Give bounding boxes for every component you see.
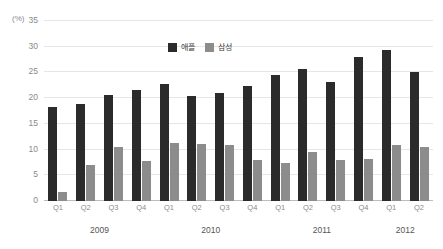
bar-apple[interactable] xyxy=(410,72,419,201)
x-axis-tick-label: Q1 xyxy=(266,203,294,212)
bar-samsung[interactable] xyxy=(308,152,317,201)
legend-label-apple: 애플 xyxy=(181,44,195,52)
bar-samsung[interactable] xyxy=(170,143,179,201)
bar-samsung[interactable] xyxy=(336,160,345,201)
legend-swatch-icon-apple xyxy=(168,43,177,52)
chart-legend: 애플 삼성 xyxy=(168,43,232,52)
x-axis-tick-label: Q2 xyxy=(294,203,322,212)
y-axis-tick-20: 20 xyxy=(29,92,38,102)
legend-item-samsung[interactable]: 삼성 xyxy=(205,43,232,52)
bar-samsung[interactable] xyxy=(281,163,290,201)
legend-label-samsung: 삼성 xyxy=(218,44,232,52)
bar-samsung[interactable] xyxy=(114,147,123,201)
bar-apple[interactable] xyxy=(48,107,57,201)
x-axis-tick-label: Q4 xyxy=(238,203,266,212)
bar-apple[interactable] xyxy=(382,50,391,201)
bar-samsung[interactable] xyxy=(253,160,262,201)
year-label-2011: 2011 xyxy=(313,225,331,235)
x-axis-tick-label: Q4 xyxy=(127,203,155,212)
x-axis-tick-label: Q4 xyxy=(350,203,378,212)
bar-apple[interactable] xyxy=(104,95,113,201)
y-axis-tick-5: 5 xyxy=(33,169,38,179)
bar-samsung[interactable] xyxy=(58,192,67,201)
bar-apple[interactable] xyxy=(132,90,141,201)
bar-group xyxy=(127,21,155,201)
bar-group xyxy=(100,21,128,201)
bar-group xyxy=(72,21,100,201)
year-label-2012: 2012 xyxy=(396,225,415,235)
bar-apple[interactable] xyxy=(298,69,307,201)
bar-samsung[interactable] xyxy=(392,145,401,201)
bar-group xyxy=(44,21,72,201)
legend-item-apple[interactable]: 애플 xyxy=(168,43,195,52)
legend-swatch-icon-samsung xyxy=(205,43,214,52)
bar-apple[interactable] xyxy=(354,57,363,201)
y-axis-tick-25: 25 xyxy=(29,66,38,76)
bar-group xyxy=(238,21,266,201)
bar-samsung[interactable] xyxy=(420,147,429,202)
x-axis-tick-label: Q3 xyxy=(322,203,350,212)
x-axis-tick-label: Q3 xyxy=(211,203,239,212)
plot-area: 05101520253035 xyxy=(44,21,433,201)
year-label-2010: 2010 xyxy=(201,225,220,235)
bar-group xyxy=(294,21,322,201)
bar-groups xyxy=(44,21,433,201)
bar-samsung[interactable] xyxy=(364,159,373,201)
bar-apple[interactable] xyxy=(187,96,196,201)
x-axis-tick-label: Q1 xyxy=(155,203,183,212)
y-axis-tick-30: 30 xyxy=(29,41,38,51)
x-axis-tick-label: Q1 xyxy=(377,203,405,212)
bar-group xyxy=(405,21,433,201)
x-axis-tick-label: Q1 xyxy=(44,203,72,212)
bar-samsung[interactable] xyxy=(197,144,206,201)
bar-apple[interactable] xyxy=(76,104,85,201)
x-axis-tick-label: Q2 xyxy=(183,203,211,212)
bar-chart: (%) 05101520253035 애플 삼성 Q1Q2Q3Q4Q1Q2Q3Q… xyxy=(0,0,443,249)
y-axis-tick-10: 10 xyxy=(29,144,38,154)
bar-group xyxy=(266,21,294,201)
bar-apple[interactable] xyxy=(243,86,252,201)
bar-apple[interactable] xyxy=(160,84,169,201)
bar-apple[interactable] xyxy=(215,93,224,201)
bar-samsung[interactable] xyxy=(86,165,95,201)
y-axis-tick-15: 15 xyxy=(29,118,38,128)
y-axis-tick-35: 35 xyxy=(29,15,38,25)
bar-apple[interactable] xyxy=(271,75,280,201)
x-axis-tick-labels: Q1Q2Q3Q4Q1Q2Q3Q4Q1Q2Q3Q4Q1Q2 xyxy=(44,203,433,212)
year-label-2009: 2009 xyxy=(90,225,109,235)
bar-samsung[interactable] xyxy=(142,161,151,201)
x-axis-tick-label: Q3 xyxy=(100,203,128,212)
y-axis-unit-label: (%) xyxy=(12,14,24,23)
x-axis-tick-label: Q2 xyxy=(72,203,100,212)
bar-group xyxy=(377,21,405,201)
x-axis-tick-label: Q2 xyxy=(405,203,433,212)
bar-group xyxy=(350,21,378,201)
bar-samsung[interactable] xyxy=(225,145,234,201)
bar-apple[interactable] xyxy=(326,82,335,201)
y-axis-tick-0: 0 xyxy=(33,195,38,205)
bar-group xyxy=(322,21,350,201)
